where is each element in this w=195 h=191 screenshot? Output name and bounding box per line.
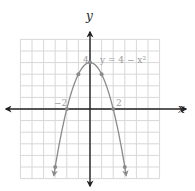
tick-label-4: 4	[83, 56, 89, 65]
data-point	[123, 165, 127, 169]
tick-label-2: 2	[116, 99, 122, 108]
tick-label-neg2: −2	[54, 99, 67, 108]
y-axis-label: y	[86, 10, 93, 22]
equation-label: y = 4 − x²	[100, 56, 146, 65]
data-point	[53, 165, 57, 169]
data-point	[111, 107, 115, 111]
data-point	[76, 72, 80, 76]
data-point	[100, 72, 104, 76]
x-axis-label: x	[178, 103, 185, 115]
parabola-chart	[0, 0, 195, 191]
